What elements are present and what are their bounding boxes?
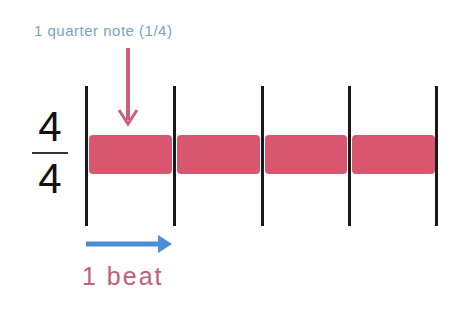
one-beat-label: 1 beat [82,262,164,291]
quarter-note-segment-4 [352,135,435,174]
quarter-note-segment-3 [265,135,347,174]
time-signature-numerator: 4 [28,108,72,146]
time-signature: 4 4 [28,108,72,198]
barline-3 [261,86,264,226]
quarter-note-segment-2 [177,135,260,174]
beat-arrow-icon [86,235,172,253]
barline-1 [85,86,88,226]
time-signature-divider [32,152,68,154]
barline-5 [435,86,438,226]
barline-2 [173,86,176,226]
quarter-note-segment-1 [89,135,172,174]
barline-4 [348,86,351,226]
down-arrow-icon [119,48,137,124]
time-signature-denominator: 4 [28,160,72,198]
